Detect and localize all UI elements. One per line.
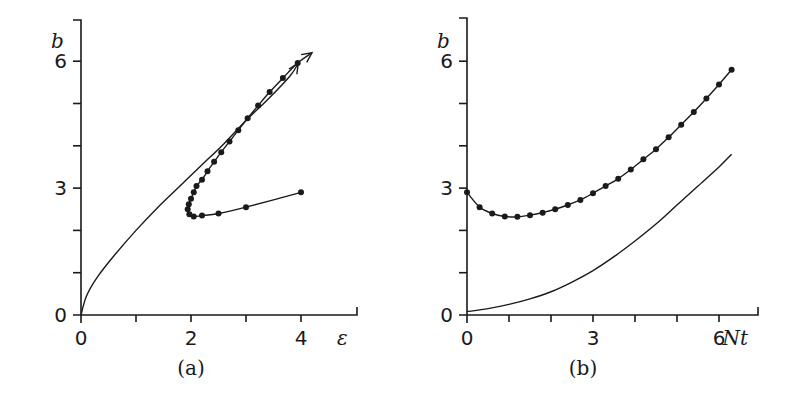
x-axis-label: ε (337, 326, 348, 350)
data-point (565, 202, 571, 208)
y-axis (459, 18, 467, 323)
plain-curve (467, 154, 732, 311)
data-point (477, 204, 483, 210)
data-point (245, 115, 251, 121)
data-point (489, 210, 495, 216)
dotted-curve (467, 70, 732, 217)
x-axis (73, 307, 357, 315)
data-point (678, 122, 684, 128)
data-point (640, 156, 646, 162)
panel-caption: (b) (569, 356, 597, 380)
data-point (691, 109, 697, 115)
x-tick-label: 0 (461, 326, 474, 350)
y-tick-label: 3 (440, 176, 453, 200)
x-tick-label: 2 (185, 326, 198, 350)
data-point (703, 95, 709, 101)
x-tick-label: 3 (587, 326, 600, 350)
data-point (188, 196, 194, 202)
data-point (186, 201, 192, 207)
data-point (502, 213, 508, 219)
data-point (540, 210, 546, 216)
figure: 024036bε(a) 036036bNt(b) (0, 0, 790, 416)
data-point (295, 60, 301, 66)
data-point (185, 206, 191, 212)
data-point (577, 197, 583, 203)
data-point (186, 211, 192, 217)
y-axis-label: b (437, 29, 450, 53)
y-axis-label: b (51, 29, 64, 53)
data-point (211, 159, 217, 165)
data-point (590, 190, 596, 196)
data-point (298, 189, 304, 195)
plain-curve (81, 63, 298, 315)
x-tick-label: 0 (75, 326, 88, 350)
y-axis (73, 20, 81, 323)
x-axis (459, 307, 758, 315)
data-point (199, 213, 205, 219)
data-point (552, 206, 558, 212)
data-point (191, 189, 197, 195)
data-point (227, 139, 233, 145)
data-point (514, 214, 520, 220)
data-point (653, 146, 659, 152)
panel-b-chart: 036036bNt(b) (437, 18, 758, 380)
data-point (267, 89, 273, 95)
data-point (464, 189, 470, 195)
x-axis-label: Nt (721, 326, 749, 350)
panel-caption: (a) (177, 356, 205, 380)
data-point (199, 177, 205, 183)
data-point (628, 166, 634, 172)
data-point (218, 149, 224, 155)
data-point (216, 210, 222, 216)
data-point (243, 204, 249, 210)
data-point (527, 212, 533, 218)
data-point (603, 183, 609, 189)
data-point (205, 168, 211, 174)
data-point (666, 134, 672, 140)
y-tick-label: 0 (440, 303, 453, 327)
data-point (716, 81, 722, 87)
data-point (615, 176, 621, 182)
panel-a-chart: 024036bε(a) (51, 20, 357, 380)
data-point (280, 75, 286, 81)
data-point (255, 103, 261, 109)
x-tick-label: 4 (295, 326, 308, 350)
y-tick-label: 3 (54, 176, 67, 200)
data-point (235, 127, 241, 133)
y-tick-label: 0 (54, 303, 67, 327)
data-point (194, 183, 200, 189)
dotted-curve (188, 53, 312, 217)
data-point (729, 67, 735, 73)
